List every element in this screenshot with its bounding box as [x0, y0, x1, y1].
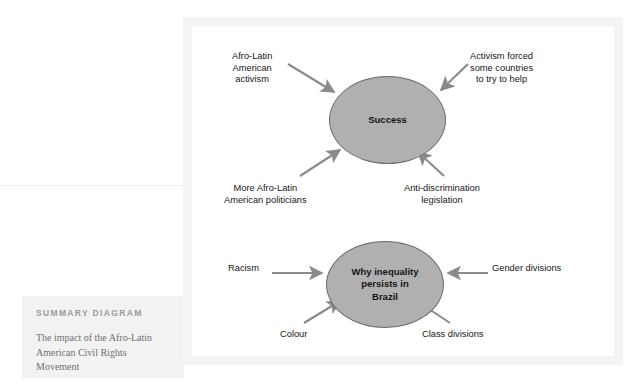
- node-success-label-line-1: Success: [368, 114, 407, 127]
- edge-label-gender-divisions: Gender divisions: [492, 263, 561, 275]
- edge-label-activism-forced: Activism forced some countries to try to…: [470, 51, 533, 86]
- edge-label-activism-forced-line-2: some countries: [470, 63, 533, 75]
- node-inequality-label: Why inequality persists in Brazil: [351, 266, 418, 304]
- edge-label-colour: Colour: [280, 329, 307, 341]
- edge-label-afro-latin-activism-line-1: Afro-Latin: [232, 51, 272, 63]
- edge-label-afro-latin-activism-line-3: activism: [232, 74, 272, 86]
- edge-label-colour-line-1: Colour: [280, 329, 307, 341]
- node-inequality[interactable]: Why inequality persists in Brazil: [326, 241, 444, 328]
- node-success[interactable]: Success: [329, 76, 446, 164]
- edge-label-gender-divisions-line-1: Gender divisions: [492, 263, 561, 275]
- summary-caption-line-3: Movement: [36, 360, 186, 375]
- edge-label-anti-discrimination-line-2: legislation: [404, 195, 480, 207]
- edge-label-more-politicians-line-2: American politicians: [224, 195, 307, 207]
- node-inequality-label-line-2: persists in: [351, 278, 418, 291]
- edge-label-anti-discrimination-line-1: Anti-discrimination: [404, 183, 480, 195]
- arrow-afro-latin-activism: [288, 64, 334, 92]
- edge-label-racism-line-1: Racism: [228, 263, 259, 275]
- node-inequality-label-line-1: Why inequality: [351, 266, 418, 279]
- diagram-panel: Success Why inequality persists in Brazi…: [183, 17, 623, 365]
- arrow-activism-forced: [441, 64, 468, 90]
- summary-caption-line-1: The impact of the Afro-Latin: [36, 331, 186, 346]
- edge-label-afro-latin-activism: Afro-Latin American activism: [232, 51, 272, 86]
- edge-label-anti-discrimination: Anti-discrimination legislation: [404, 183, 480, 206]
- edge-label-afro-latin-activism-line-2: American: [232, 63, 272, 75]
- summary-diagram-block: SUMMARY DIAGRAM The impact of the Afro-L…: [22, 296, 184, 378]
- edge-label-class-divisions: Class divisions: [422, 329, 483, 341]
- edge-label-racism: Racism: [228, 263, 259, 275]
- node-success-label: Success: [368, 114, 407, 127]
- node-inequality-label-line-3: Brazil: [351, 291, 418, 304]
- summary-diagram-caption: The impact of the Afro-Latin American Ci…: [36, 331, 186, 375]
- edge-label-activism-forced-line-3: to try to help: [470, 74, 533, 86]
- summary-caption-line-2: American Civil Rights: [36, 346, 186, 361]
- edge-label-more-politicians-line-1: More Afro-Latin: [224, 183, 307, 195]
- edge-label-more-politicians: More Afro-Latin American politicians: [224, 183, 307, 206]
- summary-diagram-kicker: SUMMARY DIAGRAM: [36, 308, 143, 318]
- diagram-canvas: Success Why inequality persists in Brazi…: [192, 26, 614, 356]
- edge-label-class-divisions-line-1: Class divisions: [422, 329, 483, 341]
- edge-label-activism-forced-line-1: Activism forced: [470, 51, 533, 63]
- arrow-more-politicians: [300, 150, 340, 176]
- page-rule-divider: [0, 185, 196, 186]
